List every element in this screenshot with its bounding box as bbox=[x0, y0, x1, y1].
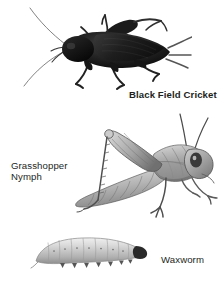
cricket-antennae-icon bbox=[24, 8, 65, 86]
cricket-head bbox=[62, 36, 94, 62]
insect-identification-plate: Black Field Cricket bbox=[0, 0, 221, 281]
waxworm-label: Waxworm bbox=[161, 254, 204, 265]
grasshopper-eye-highlight bbox=[193, 156, 197, 161]
grasshopper-nymph-label: Grasshopper Nymph bbox=[11, 160, 68, 183]
waxworm-head bbox=[133, 246, 147, 259]
black-field-cricket-illustration bbox=[22, 6, 192, 90]
waxworm-anal-proleg-icon bbox=[31, 262, 38, 268]
grasshopper-eye bbox=[190, 153, 202, 168]
grasshopper-fore-legs-icon bbox=[182, 178, 217, 204]
grasshopper-abdomen bbox=[76, 168, 166, 207]
waxworm-body bbox=[36, 238, 142, 264]
cricket-cerci-icon bbox=[166, 37, 192, 68]
grasshopper-nymph-illustration bbox=[62, 112, 220, 220]
waxworm-illustration bbox=[30, 232, 152, 272]
cricket-eye bbox=[67, 43, 75, 49]
black-field-cricket-label: Black Field Cricket bbox=[129, 89, 217, 100]
